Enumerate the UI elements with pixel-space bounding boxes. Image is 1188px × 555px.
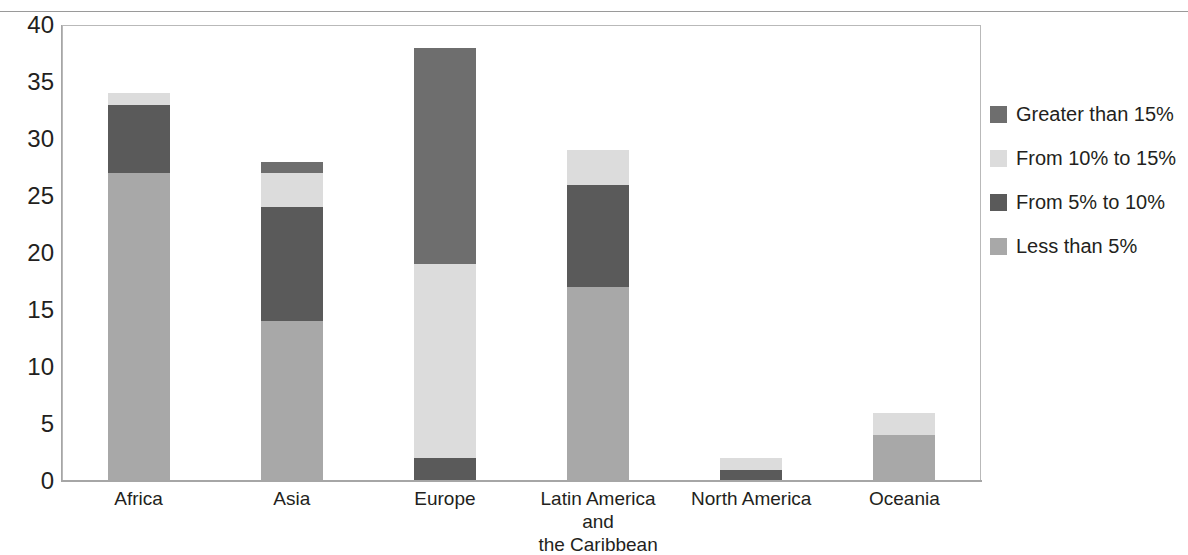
y-axis-tick-label: 30 [8,127,54,151]
legend-swatch-icon [990,106,1007,123]
bar-segment [261,173,323,207]
y-axis-tick-label: 10 [8,355,54,379]
y-axis-tick-label: 35 [8,70,54,94]
bar-group [567,25,629,481]
bar-group [720,25,782,481]
bar-segment [567,150,629,184]
legend-item: From 10% to 15% [990,136,1188,180]
legend-item: Greater than 15% [990,92,1188,136]
legend-item-label: From 10% to 15% [1016,147,1176,169]
bar-segment [261,207,323,321]
bar-stack [414,48,476,481]
bar-group [261,25,323,481]
bar-segment [873,435,935,481]
x-axis-tick-label: Oceania [829,487,979,510]
bar-group [414,25,476,481]
y-axis-labels: 4035302520151050 [0,0,54,550]
legend-item: From 5% to 10% [990,180,1188,224]
legend-item: Less than 5% [990,224,1188,268]
bar-segment [720,458,782,469]
bar-segment [873,413,935,436]
bars-layer [62,25,981,481]
bar-segment [261,321,323,481]
y-axis-tick-label: 40 [8,13,54,37]
bar-segment [108,93,170,104]
bar-stack [873,413,935,481]
bar-segment [261,162,323,173]
y-axis-tick-label: 20 [8,241,54,265]
bar-segment [567,185,629,288]
legend-item-label: From 5% to 10% [1016,191,1165,213]
y-axis-tick-label: 25 [8,184,54,208]
x-axis-tick-label: Europe [370,487,520,510]
x-axis-tick-label: Asia [217,487,367,510]
bar-stack [108,93,170,481]
x-axis-labels: AfricaAsiaEuropeLatin America andthe Car… [62,487,981,547]
x-axis-tick-label: Latin America andthe Caribbean [523,487,673,555]
bar-stack [567,150,629,481]
chart-legend: Greater than 15%From 10% to 15%From 5% t… [990,92,1188,268]
x-axis-tick-label: North America [676,487,826,510]
bar-group [873,25,935,481]
legend-swatch-icon [990,238,1007,255]
top-divider-rule [0,11,1188,12]
bar-segment [414,264,476,458]
x-axis-baseline [62,480,982,482]
bar-stack [720,458,782,481]
x-axis-tick-label: Africa [64,487,214,510]
y-axis-tick-label: 15 [8,298,54,322]
bar-segment [108,105,170,173]
bar-group [108,25,170,481]
bar-stack [261,162,323,481]
y-axis-tick-label: 5 [8,412,54,436]
y-axis-tick-label: 0 [8,469,54,493]
legend-swatch-icon [990,194,1007,211]
bar-segment [108,173,170,481]
bar-segment [414,48,476,265]
bar-segment [414,458,476,481]
legend-item-label: Greater than 15% [1016,103,1174,125]
bar-segment [567,287,629,481]
legend-item-label: Less than 5% [1016,235,1137,257]
legend-swatch-icon [990,150,1007,167]
